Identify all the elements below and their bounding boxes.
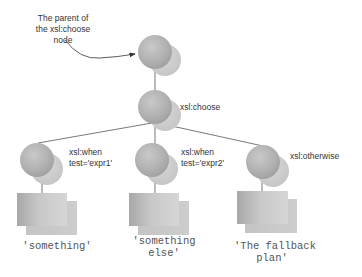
otherwise-label: xsl:otherwise [290,151,339,161]
sphere-icon [20,143,54,177]
sphere-icon [246,145,280,179]
when2-result-text-2: else' [148,247,180,259]
text-node-icon [17,193,67,226]
when1-label-2: test='expr1' [69,158,113,168]
when1-result: 'something' [17,193,92,252]
text-node-icon [237,191,288,224]
when1-result-text: 'something' [22,240,91,252]
annotation-line-3: node [54,35,73,45]
choose-label: xsl:choose [180,102,220,112]
otherwise-result: 'The fallback plan' [234,191,316,264]
annotation-line-1: The parent of [38,13,89,23]
when2-result-text-1: 'something [132,235,195,247]
sphere-icon [138,90,172,124]
otherwise-result-text-2: plan' [256,252,288,264]
when2-node: xsl:when test='expr2' [135,143,225,185]
choose-node: xsl:choose [138,90,220,131]
parent-node [138,35,181,76]
text-node-icon [129,193,179,226]
when2-result: 'something else' [129,193,196,259]
when1-node: xsl:when test='expr1' [20,143,113,185]
annotation-arrow [65,40,135,58]
otherwise-node: xsl:otherwise [246,145,339,187]
otherwise-result-text-1: 'The fallback [234,240,316,252]
when2-label-2: test='expr2' [181,158,225,168]
sphere-icon [135,143,169,177]
when1-label-1: xsl:when [69,147,102,157]
xsl-choose-tree-diagram: The parent of the xsl:choose node xsl:ch… [0,0,362,277]
edge-choose-when1 [38,123,152,143]
when2-label-1: xsl:when [181,147,214,157]
annotation: The parent of the xsl:choose node [36,13,135,58]
sphere-icon [138,35,172,69]
annotation-line-2: the xsl:choose [36,24,91,34]
